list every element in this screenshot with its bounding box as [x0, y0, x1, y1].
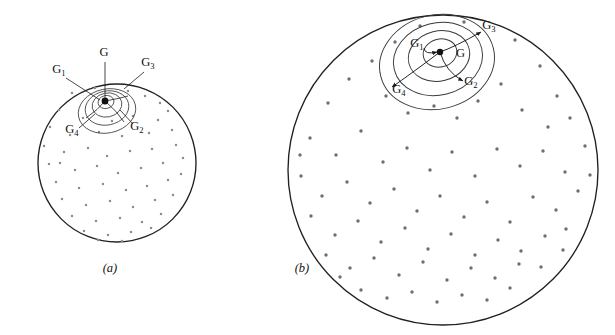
scatter-point [564, 227, 567, 230]
panel-b-center-point [437, 49, 443, 55]
scatter-point [85, 204, 88, 207]
scatter-point [476, 99, 479, 102]
scatter-point [554, 208, 557, 211]
scatter-point [167, 110, 170, 113]
panel-b: GG1G2G3G4 (b) [288, 2, 598, 325]
scatter-point [324, 253, 327, 256]
scatter-point [182, 157, 185, 160]
scatter-point [167, 179, 170, 182]
scatter-point [359, 288, 362, 291]
scatter-point [495, 147, 498, 150]
scatter-point [127, 90, 130, 93]
scatter-point [175, 144, 178, 147]
scatter-point [83, 230, 86, 233]
scatter-point [96, 165, 99, 168]
scatter-point [538, 64, 541, 67]
scatter-point [159, 102, 162, 105]
scatter-point [95, 220, 98, 223]
scatter-point [74, 169, 77, 172]
scatter-point [368, 201, 371, 204]
scatter-point [49, 126, 52, 129]
scatter-point [61, 198, 64, 201]
scatter-point [518, 164, 521, 167]
scatter-point [140, 167, 143, 170]
scatter-point [555, 94, 558, 97]
scatter-point [421, 260, 424, 263]
scatter-point [43, 145, 46, 148]
scatter-point [172, 194, 175, 197]
scatter-point [462, 20, 465, 23]
scatter-point [445, 278, 448, 281]
scatter-point [97, 239, 100, 242]
scatter-point [450, 150, 453, 153]
scatter-point [455, 116, 458, 119]
scatter-point [148, 132, 151, 135]
scatter-point [154, 199, 157, 202]
scatter-point [541, 149, 544, 152]
scatter-point [347, 77, 350, 80]
scatter-point [372, 256, 375, 259]
scatter-point [345, 180, 348, 183]
scatter-point [432, 104, 435, 107]
scatter-point [82, 117, 85, 120]
scatter-point [410, 290, 413, 293]
scatter-point [531, 195, 534, 198]
scatter-point [171, 129, 174, 132]
scatter-point [117, 172, 120, 175]
scatter-point [435, 300, 438, 303]
scatter-point [563, 170, 566, 173]
panel-a-center-point [102, 98, 109, 105]
scatter-point [508, 286, 511, 289]
label-G: G [456, 46, 465, 60]
scatter-point [55, 181, 58, 184]
scatter-point [473, 253, 476, 256]
scatter-point [493, 276, 496, 279]
scatter-point [109, 200, 112, 203]
scatter-point [338, 275, 341, 278]
scatter-point [111, 120, 114, 123]
label-G3: G3 [482, 18, 495, 34]
scatter-point [63, 151, 66, 154]
scatter-point [308, 136, 311, 139]
scatter-point [520, 108, 523, 111]
scatter-point [146, 185, 149, 188]
figure-container: GG1G2G3G4 (a) GG1G2G3G4 (b) [0, 0, 615, 335]
scatter-point [132, 206, 135, 209]
scatter-point [157, 119, 160, 122]
scatter-point [162, 162, 165, 165]
scatter-point [94, 87, 97, 90]
scatter-point [144, 95, 147, 98]
scatter-point [415, 209, 418, 212]
scatter-point [428, 168, 431, 171]
scatter-point [462, 215, 465, 218]
scatter-point [513, 38, 516, 41]
scatter-point [141, 221, 144, 224]
scatter-point [359, 129, 362, 132]
scatter-point [499, 82, 502, 85]
scatter-point [299, 174, 302, 177]
panel-a-caption: (a) [103, 261, 118, 275]
scatter-point [426, 247, 429, 250]
scatter-point [473, 174, 476, 177]
scatter-point [568, 116, 571, 119]
scatter-point [403, 226, 406, 229]
scatter-point [320, 194, 323, 197]
scatter-point [379, 240, 382, 243]
scatter-point [106, 155, 109, 158]
scatter-point [469, 266, 472, 269]
scatter-point [588, 173, 591, 176]
scatter-point [370, 59, 373, 62]
scatter-point [125, 189, 128, 192]
scatter-point [71, 92, 74, 95]
scatter-point [392, 187, 395, 190]
panel-a-boundary-circle [38, 84, 196, 242]
scatter-point [385, 296, 388, 299]
scatter-point [356, 219, 359, 222]
scatter-point [485, 298, 488, 301]
scatter-point [543, 234, 546, 237]
panel-b-boundary-circle [288, 15, 598, 325]
scatter-point [508, 220, 511, 223]
panel-b-caption: (b) [295, 261, 310, 275]
scatter-point [583, 144, 586, 147]
scatter-point [406, 111, 409, 114]
